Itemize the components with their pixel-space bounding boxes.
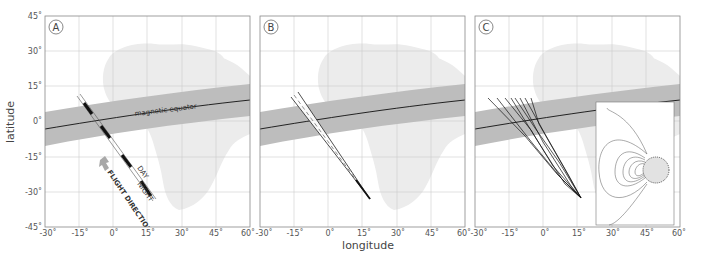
x-axis-ticks: -30˚ -15˚ 0˚ 15˚ 30˚ 45˚ 60˚ — [255, 228, 471, 238]
x-axis-label: longitude — [342, 239, 394, 252]
x-tick: 30˚ — [175, 228, 189, 238]
x-tick: -30˚ — [470, 228, 487, 238]
panel-c: C -30˚ -15˚ 0˚ 15˚ 30˚ 45˚ 60˚ — [470, 16, 686, 238]
y-tick: -30˚ — [25, 187, 42, 197]
panel-a: magnetic equator DAY NIGHT FLIGHT DIRECT… — [39, 16, 255, 238]
y-tick: 15˚ — [28, 81, 42, 91]
x-tick: 45˚ — [425, 228, 439, 238]
x-tick: 60˚ — [672, 228, 686, 238]
earth-icon — [643, 157, 669, 183]
x-tick: 30˚ — [391, 228, 405, 238]
day-label: DAY — [135, 164, 150, 180]
x-tick: -30˚ — [39, 228, 56, 238]
y-axis-ticks: 45˚ 30˚ 15˚ 0˚ -15˚ -30˚ -45˚ — [25, 11, 42, 232]
x-tick: 60˚ — [457, 228, 471, 238]
x-tick: -15˚ — [71, 228, 88, 238]
field-line-inset — [596, 102, 674, 225]
x-tick: 15˚ — [141, 228, 155, 238]
x-tick: -15˚ — [286, 228, 303, 238]
x-tick: -30˚ — [255, 228, 272, 238]
panel-b: B -30˚ -15˚ 0˚ 15˚ 30˚ 45˚ 60˚ longitude — [255, 16, 471, 252]
x-tick: 45˚ — [640, 228, 654, 238]
x-tick: 60˚ — [241, 228, 255, 238]
figure: latitude 45˚ 30˚ 15˚ 0˚ -15˚ -30˚ -45˚ m… — [0, 0, 704, 256]
panel-letter: C — [483, 22, 490, 33]
panel-letter: B — [268, 22, 275, 33]
x-tick: -15˚ — [501, 228, 518, 238]
x-tick: 15˚ — [357, 228, 371, 238]
x-axis-ticks: -30˚ -15˚ 0˚ 15˚ 30˚ 45˚ 60˚ — [470, 228, 686, 238]
y-tick: 30˚ — [28, 46, 42, 56]
y-tick: 45˚ — [28, 11, 42, 21]
x-tick: 0˚ — [109, 228, 118, 238]
x-tick: 45˚ — [209, 228, 223, 238]
x-tick: 30˚ — [606, 228, 620, 238]
x-tick: 0˚ — [540, 228, 549, 238]
x-tick: 15˚ — [572, 228, 586, 238]
y-tick: 0˚ — [33, 116, 42, 126]
y-tick: -15˚ — [25, 152, 42, 162]
track-convergence — [356, 180, 370, 199]
x-tick: 0˚ — [325, 228, 334, 238]
flight-direction-arrow-icon — [99, 156, 109, 171]
panel-letter: A — [53, 22, 60, 33]
y-axis-label: latitude — [4, 101, 17, 143]
x-axis-ticks: -30˚ -15˚ 0˚ 15˚ 30˚ 45˚ 60˚ — [39, 228, 255, 238]
